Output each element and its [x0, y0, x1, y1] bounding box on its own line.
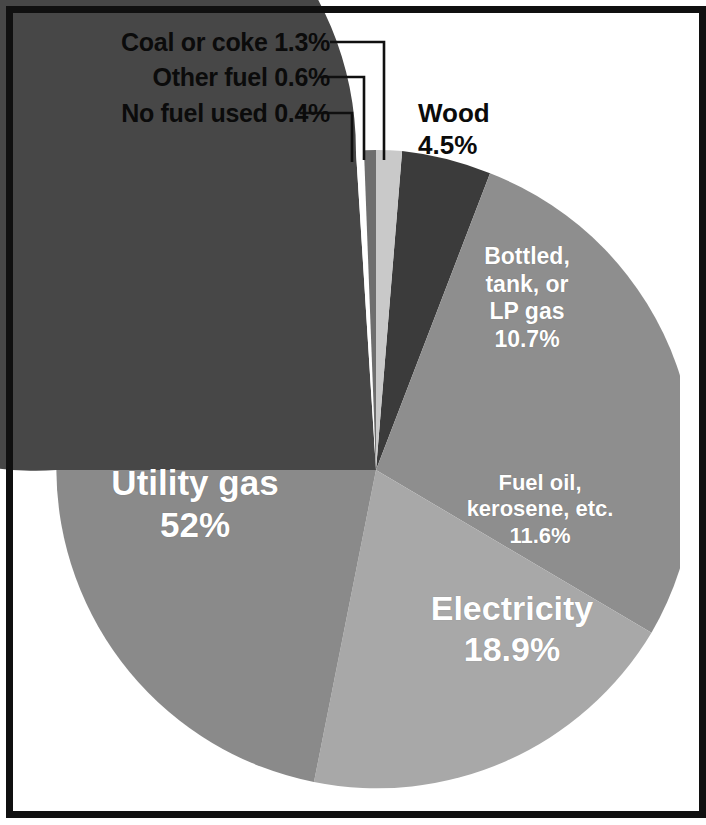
pie-label-utility-gas: Utility gas 52%	[60, 462, 330, 546]
pie-label-fuel-oil-kerosene: Fuel oil, kerosene, etc. 11.6%	[448, 470, 632, 549]
pie-label-wood: Wood 4.5%	[418, 98, 490, 161]
pie-label-bottled-tank-lp-gas: Bottled, tank, or LP gas 10.7%	[452, 243, 602, 353]
callout-label-coal-or-coke: Coal or coke 1.3%	[40, 28, 330, 57]
callout-label-no-fuel-used: No fuel used 0.4%	[22, 99, 330, 128]
callout-label-other-fuel: Other fuel 0.6%	[40, 63, 330, 92]
pie-label-electricity: Electricity 18.9%	[392, 588, 632, 670]
